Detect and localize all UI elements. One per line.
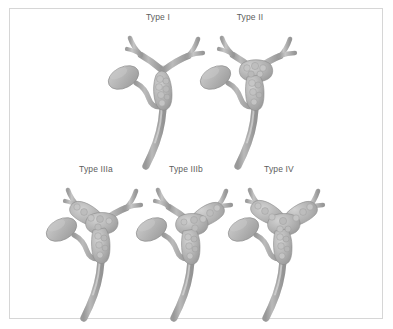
bismuth-corlette-figure: Type I Type II bbox=[0, 0, 393, 329]
panel-label-type-4: Type IV bbox=[223, 164, 335, 174]
panel-type-2: Type II bbox=[195, 12, 305, 162]
tumor-mass-type-3b bbox=[176, 202, 225, 264]
tumor-mass-type-4 bbox=[251, 200, 318, 264]
tumor-mass-type-3a bbox=[70, 201, 118, 263]
tumor-mass-type-1 bbox=[154, 71, 172, 110]
panel-type-4: Type IV bbox=[223, 164, 335, 316]
panel-art-type-4 bbox=[223, 177, 335, 329]
panel-art-type-2 bbox=[195, 25, 305, 175]
panel-label-type-2: Type II bbox=[195, 12, 305, 22]
